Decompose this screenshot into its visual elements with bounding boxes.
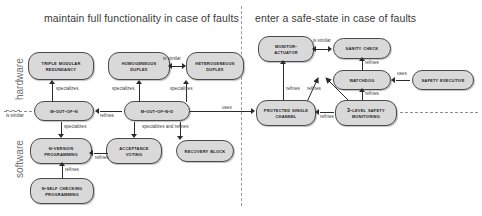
node-label: Sanity Check — [346, 45, 379, 51]
node-label: Channel — [264, 113, 308, 119]
edge-external-dashed-right — [400, 112, 478, 113]
edge-moutnd-psc-uses — [190, 111, 254, 112]
node-homogeneous-duplex[interactable]: Homogeneous Duplex — [108, 52, 170, 80]
node-label: Programming — [42, 191, 83, 197]
diagram-canvas: maintain full functionality in case of f… — [0, 0, 482, 216]
node-m-out-of-n[interactable]: M-out-of-N — [34, 101, 94, 121]
edge-label-refines: refines — [365, 60, 379, 65]
arrowhead-left — [168, 63, 172, 69]
node-n-self-checking-programming[interactable]: N-Self Checking Programming — [30, 178, 94, 204]
edge-nscp-nvp — [62, 166, 63, 178]
node-label: Redundancy — [42, 66, 81, 72]
node-label: Watchdog — [349, 77, 374, 83]
arrowhead-up — [280, 60, 286, 64]
panel-divider — [241, 6, 242, 206]
node-acceptance-voting[interactable]: Acceptance Voting — [106, 138, 162, 164]
arrowhead-up — [183, 80, 189, 84]
node-label: M-out-of-N — [50, 108, 78, 114]
edge-label-refines: refines — [65, 167, 79, 172]
edge-label-is-similar: is similar — [6, 113, 24, 118]
node-label: Recovery Block — [185, 148, 226, 154]
node-label: Actuator — [274, 49, 298, 55]
edge-label-specializes-and-refines: specializes and refines — [142, 124, 188, 129]
node-sanity-check[interactable]: Sanity Check — [333, 38, 391, 59]
edge-psc-ma — [283, 64, 284, 100]
node-n-version-programming[interactable]: N-Version Programming — [30, 138, 92, 164]
edge-moutnd-homo — [139, 84, 140, 102]
header-right: enter a safe-state in case of faults — [255, 12, 416, 24]
node-label: Programming — [44, 151, 78, 157]
node-monitor-actuator[interactable]: Monitor- Actuator — [258, 36, 314, 62]
edge-slsm-psc — [320, 112, 334, 113]
edge-se-wd-uses — [396, 80, 410, 81]
node-recovery-block[interactable]: Recovery Block — [176, 140, 234, 162]
edge-label-specializes: specializes — [112, 86, 134, 91]
node-label: Voting — [119, 151, 148, 157]
edge-label-specializes: specializes — [64, 124, 86, 129]
node-heterogeneous-duplex[interactable]: Heterogeneous Duplex — [186, 52, 244, 80]
arrowhead-left — [312, 46, 316, 52]
layer-label-software: software — [14, 140, 25, 178]
edge-label-refines: refines — [100, 113, 114, 118]
node-safety-executive[interactable]: Safety Executive — [412, 70, 474, 90]
edge-av-nvp — [94, 153, 108, 154]
arrowhead-right — [182, 63, 186, 69]
edge-label-refines: refines — [95, 155, 109, 160]
arrowhead-left — [89, 150, 93, 156]
node-m-out-of-n-d[interactable]: M-out-of-N-D — [124, 101, 190, 121]
header-left: maintain full functionality in case of f… — [44, 12, 239, 24]
arrowhead-right — [328, 46, 332, 52]
edge-label-refines: refines — [365, 91, 379, 96]
node-label: Monitoring — [347, 113, 385, 119]
edge-moutnd-moutn — [100, 111, 122, 112]
node-3-level-safety-monitoring[interactable]: 3-Level Safety Monitoring — [335, 100, 397, 126]
edge-moutn-tmr — [52, 84, 53, 102]
node-label: Duplex — [122, 66, 157, 72]
arrowhead-down — [58, 134, 64, 138]
arrowhead-right — [251, 108, 255, 114]
node-label: Safety Executive — [421, 77, 464, 83]
arrowhead-up — [136, 80, 142, 84]
node-label: Duplex — [195, 66, 234, 72]
edge-label-specializes: specializes — [170, 86, 192, 91]
arrowhead-up — [49, 80, 55, 84]
edge-slsm-wd — [362, 92, 363, 100]
edge-label-refines: refines — [307, 86, 321, 91]
edge-label-uses: uses — [397, 71, 407, 76]
edge-wd-sc — [362, 61, 363, 71]
edge-label-is-similar: is similar — [163, 56, 181, 61]
node-label: M-out-of-N-D — [141, 108, 174, 114]
arrowhead-left — [95, 108, 99, 114]
arrowhead-left — [391, 77, 395, 83]
arrowhead-down — [131, 134, 137, 138]
node-watchdog[interactable]: Watchdog — [333, 70, 391, 90]
arrowhead-up — [59, 162, 65, 166]
edge-label-specializes: specializes — [56, 86, 78, 91]
node-triple-modular-redundancy[interactable]: Triple Modular Redundancy — [28, 52, 94, 80]
edge-external-is-similar — [4, 111, 32, 112]
node-protected-single-channel[interactable]: Protected Single Channel — [256, 100, 316, 126]
edge-label-refines: refines — [286, 86, 300, 91]
arrowhead-down — [177, 136, 183, 140]
edge-label-refines: refines — [320, 114, 334, 119]
layer-label-hardware: hardware — [14, 58, 25, 100]
arrowhead-left — [315, 109, 319, 115]
edge-label-is-similar: is similar — [313, 38, 331, 43]
edge-label-uses: uses — [222, 105, 232, 110]
